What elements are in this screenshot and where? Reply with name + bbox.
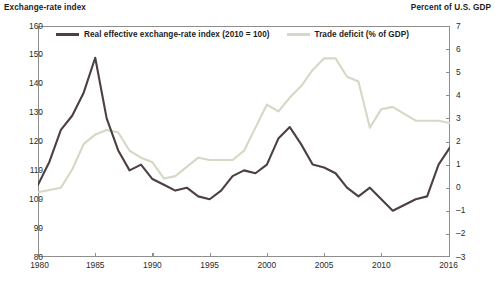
right-tick-mark: [446, 211, 450, 212]
x-tick-label: 2000: [258, 261, 277, 269]
chart-lines: [38, 26, 450, 257]
right-tick-mark: [446, 188, 450, 189]
left-tick-mark: [38, 228, 42, 229]
left-tick-mark: [38, 199, 42, 200]
legend-label: Real effective exchange-rate index (2010…: [84, 30, 270, 39]
chart-figure: Exchange-rate index Percent of U.S. GDP …: [0, 0, 495, 282]
right-tick-label: 3: [456, 114, 461, 122]
left-axis-title: Exchange-rate index: [4, 3, 86, 12]
legend-swatch-icon: [287, 33, 310, 36]
right-tick-mark: [446, 72, 450, 73]
exchange-rate-line: [38, 58, 450, 211]
x-tick-mark: [210, 253, 211, 257]
x-tick-mark: [95, 253, 96, 257]
x-tick-label: 2010: [372, 261, 391, 269]
x-tick-label: 1980: [30, 261, 49, 269]
x-tick-label: 1990: [143, 261, 162, 269]
left-tick-mark: [38, 142, 42, 143]
left-tick-mark: [38, 113, 42, 114]
right-axis-title: Percent of U.S. GDP: [411, 3, 491, 12]
right-tick-label: 7: [456, 22, 461, 30]
legend-label: Trade deficit (% of GDP): [315, 30, 409, 39]
right-tick-mark: [446, 234, 450, 235]
right-tick-mark: [446, 118, 450, 119]
chart-legend: Real effective exchange-rate index (2010…: [56, 30, 409, 39]
right-tick-label: 1: [456, 160, 461, 168]
x-tick-label: 1985: [86, 261, 105, 269]
right-tick-mark: [446, 95, 450, 96]
x-tick-mark: [152, 253, 153, 257]
right-tick-mark: [446, 142, 450, 143]
right-tick-label: 0: [456, 183, 461, 191]
right-tick-mark: [446, 49, 450, 50]
right-tick-label: –2: [456, 229, 465, 237]
x-tick-mark: [267, 253, 268, 257]
right-tick-label: –1: [456, 206, 465, 214]
right-tick-label: 6: [456, 45, 461, 53]
x-tick-label: 2016: [439, 261, 458, 269]
x-tick-mark: [381, 253, 382, 257]
left-tick-mark: [38, 55, 42, 56]
left-tick-mark: [38, 170, 42, 171]
left-tick-label: 160: [29, 22, 43, 30]
x-tick-label: 1995: [200, 261, 219, 269]
plot-area: [38, 26, 450, 257]
legend-item-trade-deficit: Trade deficit (% of GDP): [287, 30, 409, 39]
legend-swatch-icon: [56, 33, 79, 36]
x-tick-label: 2005: [315, 261, 334, 269]
legend-item-exchange-rate: Real effective exchange-rate index (2010…: [56, 30, 270, 39]
left-tick-mark: [38, 84, 42, 85]
x-tick-mark: [324, 253, 325, 257]
right-tick-label: 4: [456, 91, 461, 99]
right-tick-label: 2: [456, 137, 461, 145]
right-tick-label: 5: [456, 68, 461, 76]
right-tick-mark: [446, 165, 450, 166]
